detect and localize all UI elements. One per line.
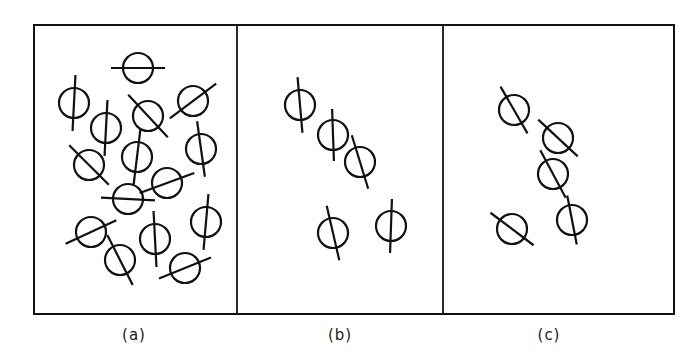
crossed-circle-symbol <box>122 129 152 185</box>
crossed-circle-symbol <box>66 217 117 247</box>
crossed-circle-symbol <box>91 100 121 156</box>
crossed-circle-symbol <box>159 253 211 283</box>
crossed-circle-symbol <box>59 75 89 131</box>
panel-a <box>59 53 221 285</box>
crossed-circle-symbol <box>140 211 170 267</box>
figure-canvas <box>0 0 677 360</box>
crossed-circle-symbol <box>538 150 568 198</box>
panel-b <box>285 77 406 260</box>
crossed-circle-symbol <box>538 120 577 157</box>
crossed-circle-symbol <box>186 121 216 176</box>
crossed-circle-symbol <box>557 195 587 244</box>
crossed-circle-symbol <box>499 87 529 134</box>
crossed-circle-symbol <box>111 53 165 83</box>
crossed-circle-symbol <box>69 145 109 185</box>
panel-label-a: (a) <box>122 326 146 344</box>
crossed-circle-symbol <box>191 194 221 250</box>
crossed-circle-symbol <box>140 168 195 198</box>
crossed-circle-symbol <box>101 184 155 214</box>
panel-label-b: (b) <box>328 326 352 344</box>
crossed-circle-symbol <box>490 213 533 245</box>
crossed-circle-symbol <box>318 109 348 161</box>
panel-c <box>490 87 587 246</box>
crossed-circle-symbol <box>128 95 168 137</box>
crossed-circle-symbol <box>105 235 135 285</box>
crossed-circle-symbol <box>285 77 315 133</box>
crossed-circle-symbol <box>376 199 406 253</box>
crossed-circle-symbol <box>318 206 348 261</box>
panel-label-c: (c) <box>538 326 561 344</box>
crossed-circle-symbol <box>170 84 216 119</box>
crossed-circle-symbol <box>345 135 375 189</box>
symbols-layer <box>59 53 587 285</box>
